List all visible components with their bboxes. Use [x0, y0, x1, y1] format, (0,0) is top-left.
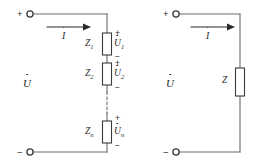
impedance-label-z1: Z1	[85, 39, 94, 50]
left-terminal-negative	[27, 149, 33, 155]
right-terminal-positive	[173, 11, 179, 17]
left-terminal-positive	[27, 11, 33, 17]
left-terminal-minus-sign: −	[17, 148, 23, 158]
right-terminal-plus-sign: +	[163, 9, 169, 19]
un-polarity-minus: −	[115, 141, 120, 150]
impedance-label-zn: Zn	[85, 127, 94, 138]
right-terminal-minus-sign: −	[163, 148, 169, 158]
voltage-label-un: Un	[114, 127, 124, 138]
un-polarity-plus: +	[115, 114, 120, 123]
impedance-box-z-equivalent	[236, 68, 245, 96]
left-current-label: I	[62, 31, 65, 41]
voltage-label-u2: U2	[114, 69, 124, 80]
u2-polarity-minus: −	[115, 83, 120, 92]
u2-polarity-plus: +	[115, 59, 120, 68]
voltage-label-u1: U1	[114, 39, 124, 50]
left-current-arrow-head	[83, 24, 91, 31]
right-source-voltage-label: U	[166, 78, 174, 89]
right-terminal-negative	[173, 149, 179, 155]
impedance-label-z2: Z2	[85, 69, 94, 80]
impedance-box-zn	[103, 121, 112, 143]
left-source-voltage-label: U	[23, 78, 31, 89]
right-current-label: I	[206, 31, 209, 41]
impedance-box-z1	[103, 33, 112, 55]
impedance-label-z-equivalent: Z	[222, 76, 227, 86]
circuit-diagram-canvas: + − I U Z1 + U1 − Z2 + U2 − Zn + Un − + …	[0, 0, 263, 168]
impedance-box-z2	[103, 63, 112, 85]
left-terminal-plus-sign: +	[17, 9, 23, 19]
u1-polarity-plus: +	[115, 29, 120, 38]
right-current-arrow-head	[227, 24, 235, 31]
